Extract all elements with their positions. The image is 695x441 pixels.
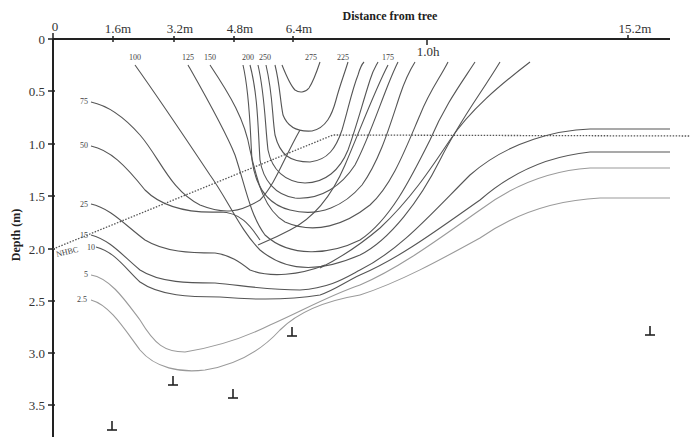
left-contour-labels: 75 50 25 15 10 5 2.5 NHBC (55, 97, 95, 304)
svg-text:125: 125 (182, 53, 194, 62)
svg-text:200: 200 (242, 53, 254, 62)
y-tick-label: 0 (39, 32, 46, 47)
y-tick-label: 0.5 (29, 84, 45, 99)
svg-text:150: 150 (204, 53, 216, 62)
x-tick-label: 3.2m (167, 21, 193, 36)
y-tick-label: 1.5 (29, 189, 45, 204)
marker-icon (107, 421, 117, 430)
top-contour-labels: 100 125 150 200 250 275 225 175 (129, 53, 394, 62)
svg-text:225: 225 (337, 53, 349, 62)
marker-icon (168, 376, 178, 385)
svg-text:50: 50 (80, 141, 88, 150)
x-tick-label: 4.8m (227, 21, 253, 36)
x-axis-title: Distance from tree (343, 9, 439, 23)
svg-text:5: 5 (84, 270, 88, 279)
svg-text:2.5: 2.5 (77, 295, 87, 304)
marker-icon (645, 326, 655, 335)
h-tick-label: 1.0h (417, 44, 440, 59)
contour-lines (91, 62, 670, 371)
y-tick-label: 2.5 (29, 294, 45, 309)
y-tick-label: 3.5 (29, 398, 45, 413)
svg-text:10: 10 (87, 243, 95, 252)
y-tick-label: 3.0 (29, 346, 45, 361)
svg-text:175: 175 (382, 53, 394, 62)
svg-text:275: 275 (305, 53, 317, 62)
svg-text:250: 250 (259, 53, 271, 62)
x-tick-label: 15.2m (619, 21, 652, 36)
y-tick-label: 2.0 (29, 242, 45, 257)
contour-chart: Distance from tree Depth (m) 0 1.6m 3.2m… (0, 0, 695, 441)
x-tick-label: 0 (52, 19, 59, 34)
y-axis-ticks: 0 0.5 1.0 1.5 2.0 2.5 3.0 3.5 (29, 32, 55, 413)
svg-text:25: 25 (80, 200, 88, 209)
foundation-markers (107, 326, 655, 430)
y-tick-label: 1.0 (29, 137, 45, 152)
marker-icon (228, 389, 238, 398)
y-axis-title: Depth (m) (9, 209, 23, 261)
svg-text:75: 75 (80, 97, 88, 106)
svg-text:100: 100 (129, 53, 141, 62)
x-tick-label: 6.4m (286, 21, 312, 36)
x-tick-label: 1.6m (105, 21, 131, 36)
marker-icon (287, 327, 297, 336)
